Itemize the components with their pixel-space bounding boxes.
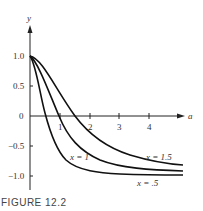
x-tick-label: 3 (117, 122, 122, 132)
y-tick-label: 0 (19, 111, 24, 121)
y-tick-label: 0.5 (13, 81, 25, 91)
y-axis-label: y (26, 13, 31, 23)
y-tick-label: −0.5 (8, 141, 25, 151)
y-tick-label: −1.0 (8, 171, 25, 181)
x-axis-label: a (188, 111, 193, 121)
y-tick-label: 1.0 (13, 51, 25, 61)
curve-label-x-1: x = 1 (69, 152, 89, 162)
curve-label-x-0-5: x = .5 (136, 178, 159, 188)
figure-chart: y a 1 2 3 4 1.0 0.5 0 −0.5 −1.0 x = 1 x … (0, 0, 203, 211)
y-axis-arrow-icon (28, 25, 33, 33)
figure-caption: FIGURE 12.2 (1, 197, 67, 208)
curve-label-x-1-5: x = 1.5 (145, 152, 172, 162)
curve-x-1-5 (30, 56, 183, 165)
x-axis-arrow-icon (177, 114, 185, 119)
x-tick-label: 4 (147, 122, 152, 132)
